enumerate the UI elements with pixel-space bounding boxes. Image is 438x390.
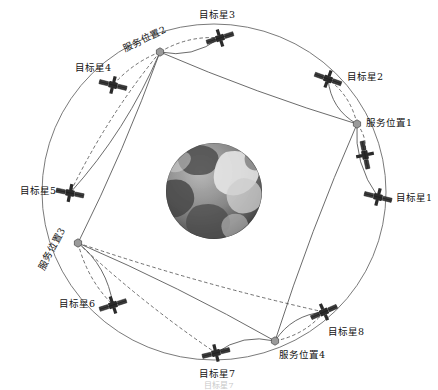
target-1-label: 目标星1 [396,193,432,203]
target-4-satellite[interactable] [97,73,129,97]
service-4-node[interactable] [271,337,278,345]
satellite-antenna-mast [319,303,324,310]
service-node-marker [74,239,81,247]
satellite-antenna-mast [328,70,333,77]
service-4-label: 服务位置4 [279,350,325,360]
satellite-lower-module [109,88,114,95]
earth-globe [156,143,268,241]
satellite-antenna-mast [112,76,117,83]
satellite-lower-module [323,81,328,88]
target-5-label: 目标星5 [20,186,56,196]
satellite-lower-module [112,307,117,314]
service-node-marker [353,120,360,128]
service-1-label: 服务位置1 [366,118,412,128]
figure-caption: 目标星7 [0,379,438,390]
service-2-node[interactable] [156,48,163,56]
service-node-marker [156,48,163,56]
target-2-satellite[interactable] [312,66,344,92]
transfer-arc-solid [78,243,113,305]
target-4-label: 目标星4 [75,63,111,73]
satellite-antenna-mast [377,188,382,195]
satellite-lower-module [356,154,363,158]
polygon-edge [275,124,357,341]
polygon-edge [78,52,160,243]
service-node-marker [271,337,278,345]
target-1-satellite[interactable] [362,185,394,209]
target-6-satellite[interactable] [97,292,129,318]
target-5-satellite[interactable] [54,181,85,204]
transfer-arc-dashed [70,52,160,193]
target-2-label: 目标星2 [347,72,383,82]
service-3-node[interactable] [74,239,81,247]
target-8-label: 目标星8 [328,327,364,337]
satellite-antenna-mast [212,344,217,351]
service-1-node[interactable] [353,120,360,128]
satellite-antenna-mast [216,29,221,36]
polygon-edge [160,52,357,124]
satellite-antenna-mast [368,152,375,156]
satellite-lower-module [215,356,220,363]
satellite-lower-module [219,40,224,47]
target-7-satellite[interactable] [200,341,232,365]
transfer-arc-dashed [328,79,357,124]
target-6-label: 目标星6 [59,299,95,309]
transfer-arc-solid [70,52,160,193]
satellite-boom [311,306,337,317]
transfer-arc-solid [328,79,357,124]
polygon-edge [78,243,275,341]
satellite-lower-module [67,196,71,203]
satellite-lower-module [374,200,379,207]
target-3-label: 目标星3 [199,10,235,20]
transfer-arc-dashed [78,243,113,305]
target-7-label: 目标星7 [199,369,235,379]
